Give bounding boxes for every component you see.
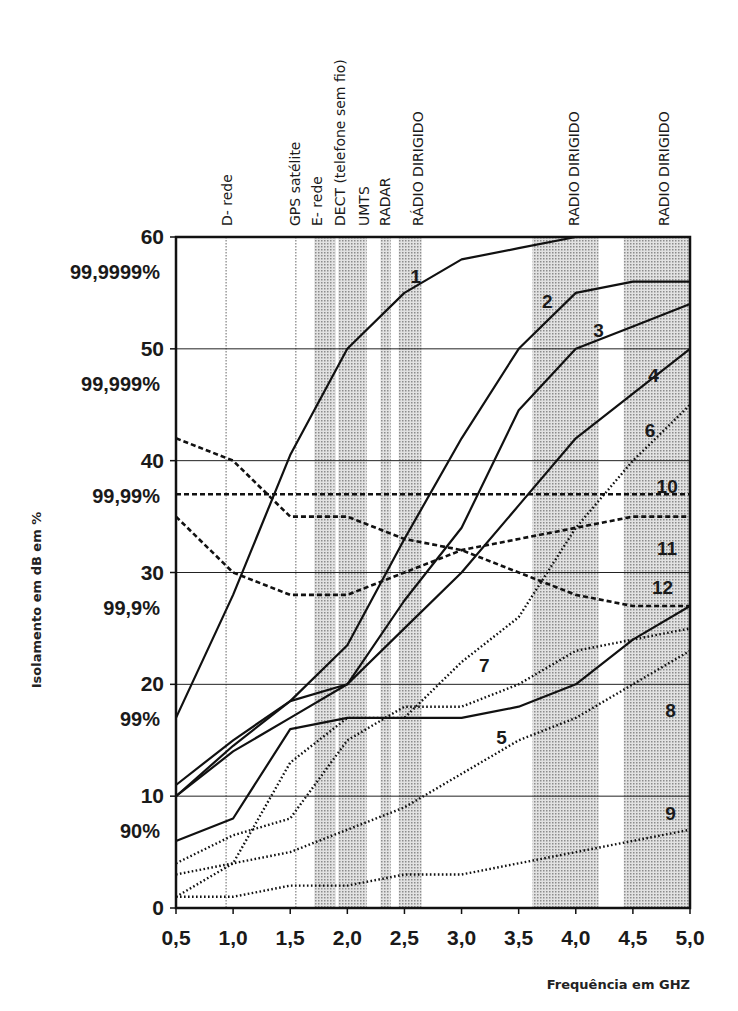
curve-number-label: 4 — [648, 365, 659, 386]
curve-number-label: 11 — [657, 538, 678, 559]
y-tick-label: 0 — [152, 896, 164, 919]
x-axis-ticks: 0,51,01,52,02,53,03,54,04,55,0 — [161, 908, 704, 949]
y-tick-percent: 99,99% — [92, 485, 160, 507]
x-tick-label: 2,5 — [390, 926, 420, 949]
isolation-frequency-chart: D- redeGPS satéliteE- redeDECT (telefone… — [0, 0, 738, 1011]
curve-3 — [176, 304, 690, 796]
band-label: RADIO DIRIGIDO — [566, 111, 582, 226]
curve-number-label: 7 — [479, 655, 490, 676]
y-tick-percent: 99,999% — [81, 373, 160, 395]
y-tick-percent: 99% — [120, 708, 160, 730]
y-tick-label: 40 — [141, 449, 164, 472]
x-tick-label: 3,5 — [504, 926, 534, 949]
band-label: DECT (telefone sem fio) — [332, 59, 348, 226]
band-label: E- rede — [309, 176, 325, 226]
band-label: RADIO DIRIGIDO — [656, 111, 672, 226]
band-label: RÁDIO DIRIGIDO — [410, 111, 426, 226]
curve-number-label: 5 — [496, 727, 507, 748]
curve-2 — [176, 282, 690, 785]
x-tick-label: 1,0 — [219, 926, 248, 949]
curve-12 — [176, 438, 690, 606]
x-tick-label: 4,0 — [561, 926, 590, 949]
band-label: D- rede — [219, 174, 235, 226]
band-label: UMTS — [356, 186, 372, 226]
y-tick-label: 20 — [141, 672, 164, 695]
curve-5 — [176, 606, 690, 841]
x-tick-label: 3,0 — [447, 926, 476, 949]
x-tick-label: 2,0 — [333, 926, 362, 949]
curve-1 — [176, 237, 690, 718]
y-axis-title: Isolamento em dB em % — [29, 512, 44, 689]
y-tick-label: 30 — [141, 561, 164, 584]
frequency-bands: D- redeGPS satéliteE- redeDECT (telefone… — [219, 59, 690, 908]
y-tick-label: 60 — [141, 225, 164, 248]
y-tick-percent: 99,9% — [103, 597, 160, 619]
curve-number-label: 6 — [645, 420, 656, 441]
x-tick-label: 4,5 — [618, 926, 648, 949]
band-label: GPS satélite — [287, 142, 303, 227]
curves — [176, 237, 690, 897]
curve-7 — [176, 628, 690, 863]
curve-11 — [176, 517, 690, 595]
curve-number-label: 3 — [593, 320, 604, 341]
y-tick-label: 50 — [141, 337, 164, 360]
x-axis-title: Frequência em GHZ — [547, 977, 690, 992]
curve-number-label: 2 — [542, 291, 553, 312]
curve-number-label: 9 — [665, 803, 676, 824]
x-tick-label: 1,5 — [276, 926, 306, 949]
curve-number-label: 10 — [657, 476, 678, 497]
y-tick-percent: 90% — [120, 820, 160, 842]
x-tick-label: 5,0 — [675, 926, 704, 949]
curve-number-label: 8 — [665, 700, 676, 721]
curve-9 — [176, 830, 690, 897]
band-label: RADAR — [377, 177, 393, 226]
curve-number-label: 12 — [652, 577, 673, 598]
y-tick-percent: 99,9999% — [70, 261, 160, 283]
curve-number-label: 1 — [411, 266, 422, 287]
x-tick-label: 0,5 — [161, 926, 191, 949]
y-axis-ticks: 01090%2099%3099,9%4099,99%5099,999%6099,… — [70, 225, 176, 919]
y-tick-label: 10 — [141, 784, 164, 807]
